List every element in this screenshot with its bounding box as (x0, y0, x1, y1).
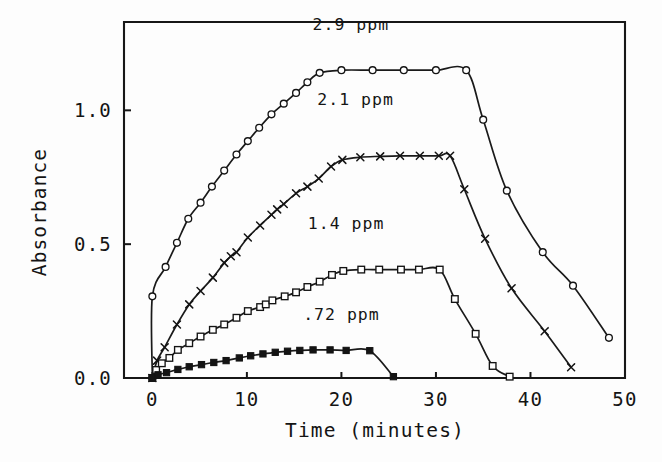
series-annotation-2: 1.4 ppm (308, 214, 385, 233)
marker-cross (482, 235, 489, 242)
marker-open-circle (244, 138, 251, 145)
x-tick-label: 10 (234, 388, 259, 410)
marker-open-circle (233, 151, 240, 158)
x-axis-title: Time (minutes) (285, 419, 465, 442)
marker-open-square (472, 331, 479, 338)
marker-cross (161, 344, 168, 351)
marker-open-square (210, 327, 217, 334)
marker-filled-square (284, 348, 290, 354)
marker-cross (173, 321, 180, 328)
marker-open-square (489, 363, 496, 370)
marker-filled-square (198, 362, 204, 368)
marker-filled-square (343, 347, 349, 353)
marker-open-circle (304, 79, 311, 86)
marker-cross (568, 364, 575, 371)
marker-open-square (316, 278, 323, 285)
marker-open-circle (280, 100, 287, 107)
x-tick-label: 20 (329, 388, 354, 410)
chart-figure: 01020304050 0.00.51.0 2.9 ppm2.1 ppm1.4 … (0, 0, 662, 462)
marker-cross (244, 234, 251, 241)
absorbance-vs-time-chart: 01020304050 0.00.51.0 2.9 ppm2.1 ppm1.4 … (0, 0, 662, 462)
marker-filled-square (223, 358, 229, 364)
marker-open-square (159, 360, 166, 367)
marker-open-circle (503, 187, 510, 194)
marker-filled-square (310, 347, 316, 353)
marker-filled-square (211, 359, 217, 365)
marker-open-circle (293, 90, 300, 97)
marker-cross (315, 175, 322, 182)
marker-open-square (376, 266, 383, 273)
marker-cross (447, 152, 454, 159)
marker-open-square (329, 272, 336, 279)
marker-open-circle (570, 282, 577, 289)
x-tick-label: 30 (423, 388, 448, 410)
marker-open-square (452, 296, 459, 303)
series-markers (149, 347, 396, 381)
marker-cross (274, 206, 281, 213)
marker-cross (209, 274, 216, 281)
marker-open-circle (162, 264, 169, 271)
marker-filled-square (390, 374, 396, 380)
y-tick-label: 0.0 (74, 367, 112, 389)
marker-filled-square (327, 347, 333, 353)
x-tick-label: 40 (518, 388, 543, 410)
marker-open-square (197, 333, 204, 340)
marker-cross (508, 285, 515, 292)
marker-cross (197, 288, 204, 295)
marker-open-square (175, 347, 182, 354)
marker-open-square (186, 340, 193, 347)
x-axis-tick-labels: 01020304050 (146, 388, 638, 410)
marker-open-square (233, 314, 240, 321)
series-annotation-1: 2.1 ppm (317, 90, 394, 109)
marker-open-square (506, 373, 513, 380)
marker-open-circle (149, 293, 156, 300)
marker-filled-square (248, 353, 254, 359)
marker-open-square (436, 266, 443, 273)
marker-filled-square (367, 348, 373, 354)
marker-open-circle (209, 183, 216, 190)
marker-open-circle (400, 67, 407, 74)
marker-open-circle (463, 67, 470, 74)
marker-open-circle (316, 69, 323, 76)
marker-filled-square (175, 366, 181, 372)
marker-filled-square (186, 364, 192, 370)
marker-open-square (262, 301, 269, 308)
data-series (149, 347, 396, 381)
marker-cross (304, 183, 311, 190)
marker-cross (328, 163, 335, 170)
marker-cross (293, 190, 300, 197)
y-tick-label: 1.0 (74, 99, 112, 121)
marker-cross (221, 259, 228, 266)
marker-cross (461, 186, 468, 193)
series-annotation-3: .72 ppm (303, 305, 380, 324)
marker-open-circle (197, 199, 204, 206)
marker-filled-square (155, 372, 161, 378)
marker-open-square (269, 297, 276, 304)
marker-cross (541, 328, 548, 335)
marker-cross (257, 222, 264, 229)
marker-open-square (293, 289, 300, 296)
series-annotation-0: 2.9 ppm (313, 15, 390, 34)
marker-open-circle (433, 67, 440, 74)
marker-cross (186, 301, 193, 308)
marker-open-square (398, 266, 405, 273)
marker-filled-square (163, 370, 169, 376)
marker-cross (280, 201, 287, 208)
marker-open-circle (606, 334, 613, 341)
marker-open-circle (268, 111, 275, 118)
marker-open-square (245, 308, 252, 315)
marker-filled-square (236, 355, 242, 361)
marker-open-square (166, 355, 173, 362)
marker-open-circle (369, 67, 376, 74)
marker-open-circle (256, 124, 263, 131)
x-tick-label: 50 (612, 388, 637, 410)
y-tick-label: 0.5 (74, 233, 112, 255)
marker-open-circle (185, 215, 192, 222)
y-axis-title: Absorbance (28, 148, 51, 276)
marker-open-square (416, 266, 423, 273)
marker-open-square (221, 321, 228, 328)
x-tick-label: 0 (146, 388, 159, 410)
marker-open-square (340, 268, 347, 275)
marker-filled-square (297, 347, 303, 353)
marker-open-square (281, 293, 288, 300)
